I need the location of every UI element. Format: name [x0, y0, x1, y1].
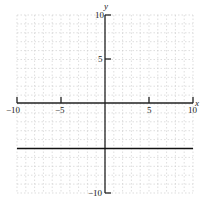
y-tick-label-10: 10	[95, 10, 105, 20]
coordinate-plane: y x −10 −5 5 10 10 5 −10	[0, 0, 201, 202]
y-tick-label-neg10: −10	[88, 188, 103, 198]
y-tick-label-5: 5	[98, 54, 103, 64]
x-tick-label-neg10: −10	[6, 105, 21, 115]
x-tick-label-10: 10	[188, 105, 198, 115]
x-tick-label-neg5: −5	[55, 105, 65, 115]
x-tick-label-5: 5	[147, 105, 152, 115]
